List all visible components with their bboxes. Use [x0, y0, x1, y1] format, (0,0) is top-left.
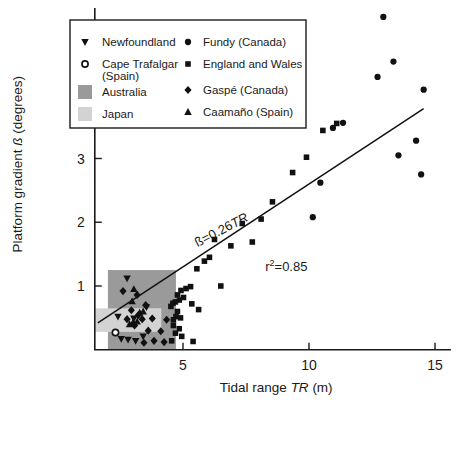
y-tick-label-1: 1 [77, 278, 85, 294]
x-tick-label-5: 5 [179, 357, 187, 373]
x-axis-title-pre: Tidal range [220, 380, 291, 395]
plot-canvas: 5101512345 ß=0.26TRr2=0.85 Tidal range T… [0, 0, 468, 458]
data-point-fundy-canada-9 [317, 180, 323, 186]
legend-label-england-and-wales: England and Wales [203, 58, 303, 70]
legend-label-japan: Japan [102, 108, 133, 120]
data-point-cape-trafalgar-spain-0 [112, 329, 118, 335]
legend-label-cape-trafalgar-spain: Cape Trafalgar [102, 58, 178, 70]
legend-marker-england-and-wales [185, 61, 191, 67]
data-point-england-and-wales-22 [189, 301, 195, 307]
data-point-england-and-wales-1 [320, 128, 326, 134]
data-point-england-and-wales-3 [290, 170, 296, 176]
legend-item-england-and-wales[interactable]: England and Wales [185, 58, 302, 70]
data-point-fundy-canada-10 [310, 214, 316, 220]
data-point-england-and-wales-2 [304, 154, 310, 160]
data-point-england-and-wales-24 [196, 307, 202, 313]
y-axis-title-post: (degrees) [10, 76, 25, 138]
data-point-fundy-canada-0 [380, 14, 386, 20]
data-point-england-and-wales-23 [168, 304, 174, 310]
x-tick-label-15: 15 [427, 357, 443, 373]
legend-label-caama-o-spain: Caamaño (Spain) [203, 106, 293, 118]
legend-label-australia: Australia [102, 86, 147, 98]
x-axis-title: Tidal range TR (m) [220, 380, 333, 395]
data-point-england-and-wales-7 [250, 239, 256, 245]
data-point-england-and-wales-32 [179, 334, 185, 340]
data-point-england-and-wales-29 [171, 323, 177, 329]
data-point-england-and-wales-13 [218, 283, 224, 289]
data-point-fundy-canada-4 [413, 138, 419, 144]
data-point-england-and-wales-5 [258, 216, 264, 222]
series-england-and-wales [168, 121, 339, 345]
data-point-england-and-wales-34 [169, 338, 175, 344]
legend-item-australia[interactable]: Australia [78, 85, 147, 99]
data-point-england-and-wales-11 [202, 258, 208, 264]
data-point-england-and-wales-25 [175, 309, 181, 315]
y-tick-label-3: 3 [77, 151, 85, 167]
data-point-fundy-canada-5 [395, 152, 401, 158]
series-fundy-canada [310, 14, 427, 220]
y-tick-label-2: 2 [77, 214, 85, 230]
legend-label-newfoundland: Newfoundland [102, 36, 176, 48]
r-squared: r2=0.85 [265, 258, 307, 274]
data-point-england-and-wales-31 [173, 330, 179, 336]
legend-label-gasp-canada: Gaspé (Canada) [203, 84, 288, 96]
data-point-england-and-wales-33 [190, 339, 196, 345]
data-point-england-and-wales-17 [175, 292, 181, 298]
series-cape-trafalgar-spain [112, 329, 118, 335]
data-point-england-and-wales-4 [270, 199, 276, 205]
legend[interactable]: NewfoundlandCape Trafalgar(Spain)Austral… [70, 20, 306, 128]
data-point-england-and-wales-15 [183, 286, 189, 292]
legend-label-fundy-canada: Fundy (Canada) [203, 36, 286, 48]
data-point-england-and-wales-12 [194, 266, 200, 272]
data-point-fundy-canada-7 [340, 120, 346, 126]
regression-equation: ß=0.26TR [192, 210, 251, 250]
data-point-england-and-wales-8 [228, 243, 234, 249]
data-point-england-and-wales-27 [178, 315, 184, 321]
data-point-england-and-wales-0 [334, 121, 340, 127]
scatter-plot-figure: 5101512345 ß=0.26TRr2=0.85 Tidal range T… [0, 0, 468, 458]
regression-line [98, 109, 424, 323]
x-axis-title-post: (m) [309, 380, 333, 395]
regression-line-group [98, 109, 424, 323]
legend-swatch-japan [78, 107, 92, 121]
data-point-fundy-canada-2 [374, 74, 380, 80]
data-point-fundy-canada-3 [421, 87, 427, 93]
legend-item-japan[interactable]: Japan [78, 107, 133, 121]
legend-swatch-australia [78, 85, 92, 99]
r-squared-value: =0.85 [275, 259, 308, 274]
legend-marker-fundy-canada [185, 39, 191, 45]
data-point-england-and-wales-10 [207, 255, 213, 261]
legend-label-cape-trafalgar-spain-line2: (Spain) [102, 70, 139, 82]
legend-marker-cape-trafalgar-spain [82, 61, 88, 67]
x-tick-label-10: 10 [301, 357, 317, 373]
data-point-england-and-wales-28 [171, 317, 177, 323]
y-axis-title-pre: Platform gradient [10, 146, 25, 253]
data-point-fundy-canada-1 [390, 58, 396, 64]
data-point-fundy-canada-6 [418, 171, 424, 177]
x-axis-title-italic: TR [291, 380, 309, 395]
shaded-region-group [95, 270, 176, 350]
y-axis-title: Platform gradient ß (degrees) [10, 76, 25, 252]
y-axis-title-italic: ß [10, 138, 25, 146]
